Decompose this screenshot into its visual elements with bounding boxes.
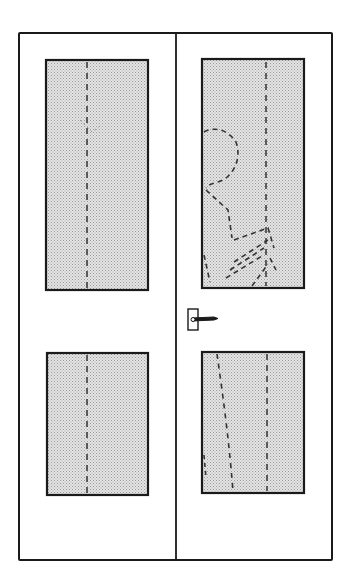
right-top-glass [202,59,304,288]
left-top-glass [46,60,148,290]
right-bottom-glass [202,352,304,493]
left-door[interactable] [46,60,148,495]
left-bottom-glass [47,353,148,495]
right-door[interactable] [202,59,304,493]
double-door-diagram [0,0,350,583]
